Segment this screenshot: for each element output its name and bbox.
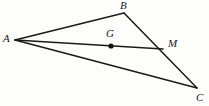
point-g-dot [108, 43, 113, 48]
vertex-label-b: B [120, 0, 127, 11]
segment-am [15, 40, 163, 49]
figure-canvas [0, 0, 209, 106]
segment-bc [124, 13, 197, 88]
vertex-label-g: G [106, 28, 114, 39]
vertex-label-c: C [196, 92, 203, 103]
geometry-figure: A B C M G [0, 0, 209, 106]
triangle-outline [15, 13, 197, 88]
vertex-label-a: A [3, 33, 10, 44]
cevian-am [15, 40, 163, 49]
marked-points [108, 43, 113, 48]
vertex-label-m: M [168, 38, 177, 49]
